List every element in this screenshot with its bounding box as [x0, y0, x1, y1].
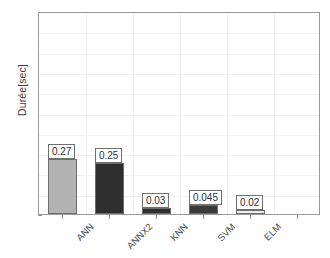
- gridline-vertical: [133, 13, 134, 214]
- x-axis-tick-mark: [297, 215, 298, 219]
- gridline-vertical: [274, 13, 275, 214]
- bar-value-label: 0.25: [95, 148, 122, 163]
- gridline-horizontal: [39, 74, 319, 75]
- x-axis-tick-mark: [250, 215, 251, 219]
- bar: [189, 205, 218, 214]
- x-axis-tick-mark: [203, 215, 204, 219]
- gridline-horizontal: [39, 115, 319, 116]
- x-axis-tick-label: ELM: [261, 221, 283, 243]
- gridline-horizontal: [39, 135, 319, 136]
- x-axis-tick-label: ANNX2: [124, 221, 154, 251]
- gridline-horizontal: [39, 196, 319, 197]
- x-axis-tick-mark: [62, 215, 63, 219]
- bar: [95, 163, 124, 214]
- y-axis-tick-mark: [38, 215, 42, 216]
- bar-value-label: 0.02: [236, 195, 263, 210]
- y-axis-title: Durée[sec]: [16, 30, 28, 150]
- x-axis-tick-label: SVM: [215, 221, 237, 243]
- gridline-horizontal: [39, 94, 319, 95]
- bar-value-label: 0.27: [48, 144, 75, 159]
- gridline-vertical: [86, 13, 87, 214]
- gridline-horizontal: [39, 54, 319, 55]
- gridline-horizontal: [39, 155, 319, 156]
- x-axis-tick-label: ANN: [73, 221, 95, 243]
- x-axis-tick-mark: [109, 215, 110, 219]
- bar-chart: Durée[sec] 00.10.20.30.40.50.60.70.80.91…: [0, 0, 330, 258]
- bar: [142, 208, 171, 214]
- x-axis-tick-mark: [156, 215, 157, 219]
- bar-value-label: 0.045: [189, 190, 222, 205]
- gridline-horizontal: [39, 175, 319, 176]
- bar-value-label: 0.03: [142, 193, 169, 208]
- gridline-horizontal: [39, 33, 319, 34]
- gridline-vertical: [180, 13, 181, 214]
- x-axis-tick-label: KNN: [167, 221, 189, 243]
- bar: [48, 159, 77, 214]
- gridline-vertical: [227, 13, 228, 214]
- plot-area: [38, 12, 320, 215]
- bar: [236, 210, 265, 214]
